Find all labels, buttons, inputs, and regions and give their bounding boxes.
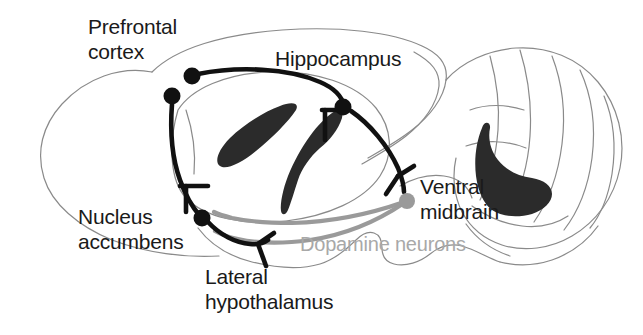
pathway-hypothalamus-fork-down (258, 244, 266, 266)
node-prefrontal-cortex (164, 88, 181, 105)
label-hippocampus: Hippocampus (275, 46, 401, 71)
cerebellum-inner-arc (470, 106, 524, 111)
label-dopamine-neurons: Dopamine neurons (300, 232, 466, 257)
node-hippocampus-source (184, 68, 201, 85)
corpus-callosum-outline (172, 72, 389, 223)
label-nucleus-accumbens: Nucleus accumbens (78, 204, 184, 254)
node-hippocampus-target (335, 99, 352, 116)
brain-circuit-figure: Prefrontal cortex Hippocampus Ventral mi… (0, 0, 643, 335)
pathway-pfc-to-hippocampus (198, 69, 344, 106)
label-prefrontal-cortex: Prefrontal cortex (88, 14, 177, 64)
lateral-ventricle-shape (217, 103, 297, 167)
cortex-caudal-outline (368, 80, 446, 158)
hippocampal-hook-shape (281, 111, 343, 215)
node-ventral-midbrain (399, 193, 415, 209)
node-nucleus-accumbens (194, 210, 211, 227)
label-lateral-hypothalamus: Lateral hypothalamus (205, 264, 333, 314)
filled-structures-group (217, 103, 552, 216)
label-ventral-midbrain: Ventral midbrain (420, 174, 499, 224)
peduncle-outline (466, 224, 510, 256)
cerebellum-folium-5 (590, 96, 614, 228)
pathway-midbrain-fork-left (386, 176, 398, 194)
septum-outline (186, 110, 195, 174)
cerebellum-folium-4 (564, 70, 594, 230)
